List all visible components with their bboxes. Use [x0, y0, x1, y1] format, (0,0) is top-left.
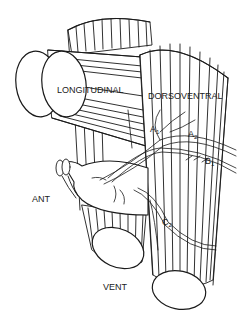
- label-a1: A1: [150, 125, 159, 135]
- label-c2-sub: 2: [169, 222, 172, 228]
- label-a1-sub: 1: [156, 129, 159, 135]
- label-c2: C2: [162, 218, 172, 228]
- label-longitudinal: LONGITUDINAL: [57, 86, 124, 95]
- label-a2-sub: 2: [194, 134, 197, 140]
- diagram-canvas: LONGITUDINAL DORSOVENTRAL ANT VENT A1 A2…: [0, 0, 246, 325]
- label-vent: VENT: [103, 283, 127, 292]
- label-b1: B1: [205, 157, 214, 167]
- dorsoventral-muscle: [140, 44, 228, 314]
- label-dorsoventral: DORSOVENTRAL: [148, 92, 223, 101]
- longitudinal-muscle: [12, 48, 146, 146]
- ventral-muscle-bundle: [82, 205, 151, 277]
- label-b1-sub: 1: [211, 161, 214, 167]
- label-a2: A2: [188, 130, 197, 140]
- label-ant: ANT: [32, 195, 50, 204]
